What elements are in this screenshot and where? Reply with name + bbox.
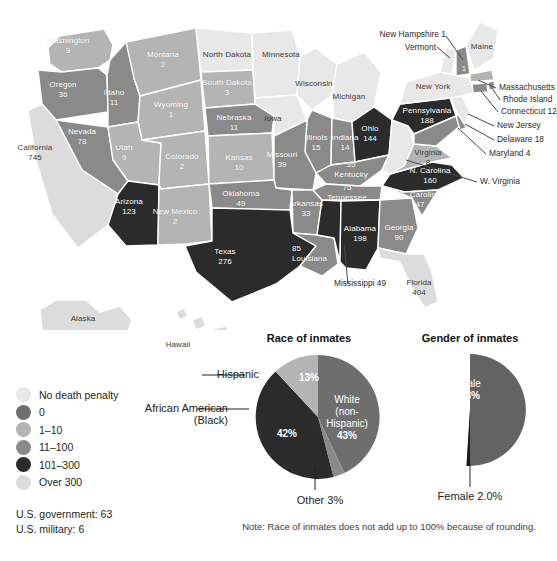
callout-rhode-island: Rhode Island bbox=[503, 94, 552, 104]
state-shape-new-mexico bbox=[158, 184, 212, 245]
state-shape-alabama bbox=[340, 200, 380, 270]
legend-swatch-icon-11-100 bbox=[16, 440, 31, 455]
callout-new-jersey: New Jersey bbox=[497, 120, 541, 130]
state-shape-florida bbox=[378, 248, 438, 308]
legend-label-over-300: Over 300 bbox=[39, 476, 82, 488]
state-shape-massachusetts bbox=[470, 70, 494, 82]
state-shape-georgia bbox=[378, 198, 418, 254]
gender-pie-leader-lines bbox=[400, 332, 540, 512]
state-shape-tennessee bbox=[313, 184, 382, 200]
legend-label-101-300: 101–300 bbox=[39, 459, 80, 471]
callout-vermont: Vermont bbox=[356, 42, 436, 52]
us-death-penalty-map: Washington9 Oregon36 Idaho11 Montana2 No… bbox=[0, 0, 552, 330]
state-shape-hawaii-3 bbox=[208, 326, 236, 330]
state-shape-north-dakota bbox=[196, 28, 253, 72]
state-shape-wisconsin bbox=[297, 48, 337, 110]
map-svg bbox=[0, 0, 552, 330]
leader-maryland bbox=[458, 128, 486, 154]
leader-delaware bbox=[465, 124, 494, 140]
callout-west-virginia: W. Virginia bbox=[480, 176, 520, 186]
legend-label-1-10: 1–10 bbox=[39, 424, 62, 436]
race-pie-chart: Race of inmates 13% White (non- Hispanic… bbox=[229, 332, 389, 507]
state-shape-indiana bbox=[331, 118, 355, 165]
footnote-us-military: U.S. military: 6 bbox=[16, 522, 112, 537]
legend-swatch-icon-101-300 bbox=[16, 457, 31, 472]
legend-label-11-100: 11–100 bbox=[39, 441, 73, 453]
state-shape-kansas bbox=[208, 133, 274, 184]
callout-massachusetts: Massachusetts bbox=[499, 82, 555, 92]
race-pie-leader-lines bbox=[89, 332, 389, 512]
callout-maryland: Maryland 4 bbox=[489, 148, 530, 158]
callout-new-hampshire: New Hampshire 1 bbox=[336, 29, 446, 39]
gender-pie-chart: Gender of inmates Male 98% Female 2.0% bbox=[400, 332, 540, 507]
leader-new-jersey bbox=[468, 114, 494, 126]
state-shape-connecticut bbox=[472, 83, 488, 93]
pies-rounding-note: Note: Race of inmates does not add up to… bbox=[229, 521, 549, 532]
legend-swatch-icon-zero bbox=[16, 405, 31, 420]
legend-swatch-icon-1-10 bbox=[16, 422, 31, 437]
state-shape-hawaii-1 bbox=[176, 308, 188, 320]
state-shape-hawaii-2 bbox=[192, 316, 206, 330]
legend-swatch-icon-no-death-penalty bbox=[16, 387, 31, 402]
legend-label-zero: 0 bbox=[39, 406, 45, 418]
callout-mississippi: Mississippi 49 bbox=[334, 278, 386, 288]
state-shape-minnesota bbox=[252, 30, 300, 98]
state-shape-south-dakota bbox=[201, 70, 255, 108]
legend-swatch-icon-over-300 bbox=[16, 475, 31, 490]
state-shape-alaska bbox=[40, 300, 132, 330]
callout-connecticut: Connecticut 12 bbox=[501, 106, 557, 116]
state-shape-washington bbox=[48, 29, 113, 72]
callout-delaware: Delaware 18 bbox=[497, 134, 544, 144]
leader-connecticut bbox=[481, 91, 498, 112]
state-shape-maine bbox=[466, 22, 498, 70]
